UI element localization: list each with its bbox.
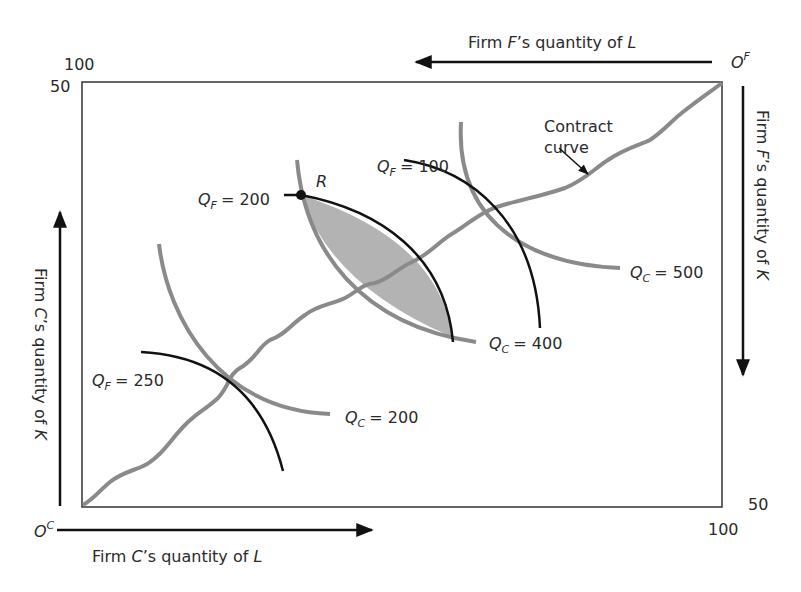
isoquant-label-qc-400: QC= 400: [489, 334, 562, 356]
isoquant-c-200: [159, 244, 330, 414]
dimension-label-bottom-outer: 100: [708, 520, 739, 539]
isoquant-label-qf-200: QF= 200: [198, 190, 270, 212]
axis-label-firm-f-labor: Firm F’s quantity of L: [468, 33, 636, 52]
point-r: [296, 190, 306, 200]
dimension-label-bottom-inner: 50: [748, 495, 768, 514]
axis-label-firm-f-capital: Firm F’s quantity of K: [753, 110, 772, 281]
dimension-label-top-outer: 100: [64, 55, 95, 74]
isoquant-label-qc-200: QC= 200: [345, 408, 418, 430]
axis-label-firm-c-capital: Firm C’s quantity of K: [31, 268, 50, 441]
contract-curve-label-line1: Contract: [544, 117, 613, 136]
isoquant-label-qc-500: QC= 500: [630, 263, 703, 285]
origin-firm-f: OF: [731, 50, 751, 72]
origin-firm-c: OC: [34, 519, 55, 541]
isoquant-label-qf-100: QF= 100: [377, 157, 449, 179]
shaded-lens-region: [301, 195, 452, 337]
edgeworth-box-diagram: R Contract curve QF= 100 QF= 200 QF= 250…: [0, 0, 801, 592]
point-r-label: R: [316, 172, 327, 191]
dimension-label-top-inner: 50: [50, 77, 70, 96]
isoquant-label-qf-250: QF= 250: [92, 371, 164, 393]
axis-label-firm-c-labor: Firm C’s quantity of L: [92, 547, 262, 566]
